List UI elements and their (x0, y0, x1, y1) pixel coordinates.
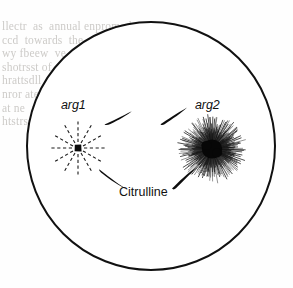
annotation-citrulline: Citrulline (119, 185, 168, 199)
colony-arg2-core-lobe (201, 141, 211, 150)
colony-label-arg2: arg2 (195, 98, 220, 112)
colony-arg1-core (75, 145, 82, 152)
figure-canvas (0, 0, 293, 288)
figure-root: llectr as annual enpromed q ccd towards … (0, 0, 293, 288)
colony-arg2-core-lobe-2 (212, 149, 222, 158)
colony-label-arg1: arg1 (61, 98, 86, 112)
agar-plate-outline (27, 22, 275, 270)
